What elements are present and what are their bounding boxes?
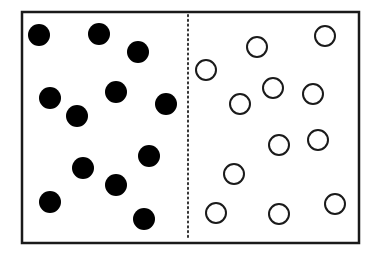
filled-particle xyxy=(105,81,127,103)
filled-particle xyxy=(155,93,177,115)
open-particle xyxy=(269,204,289,224)
particle-diagram xyxy=(0,0,376,257)
filled-particle xyxy=(88,23,110,45)
open-particle xyxy=(325,194,345,214)
filled-particle xyxy=(28,24,50,46)
open-particle xyxy=(247,37,267,57)
filled-particle xyxy=(39,191,61,213)
open-particle xyxy=(196,60,216,80)
open-particle xyxy=(224,164,244,184)
open-particle xyxy=(303,84,323,104)
filled-particle xyxy=(72,157,94,179)
open-particle xyxy=(206,203,226,223)
open-particle xyxy=(315,26,335,46)
filled-particle xyxy=(105,174,127,196)
container-box xyxy=(22,12,359,243)
filled-particles-group xyxy=(28,23,177,230)
filled-particle xyxy=(39,87,61,109)
filled-particle xyxy=(133,208,155,230)
open-particles-group xyxy=(196,26,345,224)
open-particle xyxy=(263,78,283,98)
open-particle xyxy=(230,94,250,114)
open-particle xyxy=(269,135,289,155)
filled-particle xyxy=(66,105,88,127)
filled-particle xyxy=(138,145,160,167)
open-particle xyxy=(308,130,328,150)
filled-particle xyxy=(127,41,149,63)
